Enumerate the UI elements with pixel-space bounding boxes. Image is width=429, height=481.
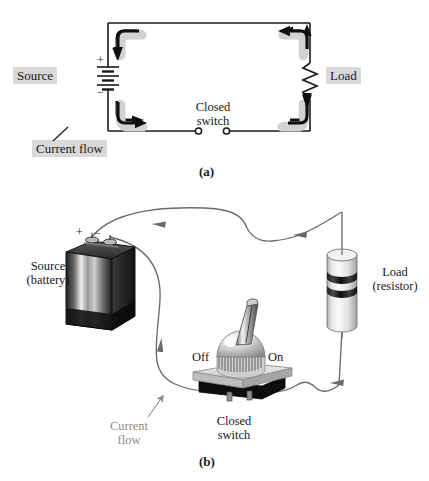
current-flow-line2: flow [98, 433, 160, 447]
panel-b-current-flow-label: Current flow [98, 419, 160, 447]
circuit-figure: Source Load + − Closed switch Current fl… [0, 0, 429, 481]
switch-off-label: Off [192, 350, 209, 364]
source-line1: Source [12, 259, 84, 273]
panel-b-source-label: Source (battery) [12, 259, 84, 287]
source-line2: (battery) [12, 273, 84, 287]
closed-switch-line1: Closed [203, 414, 265, 428]
panel-b-load-label: Load (resistor) [362, 265, 428, 293]
current-flow-line1: Current [98, 419, 160, 433]
panel-b-pictorial [0, 0, 429, 481]
load-line2: (resistor) [362, 279, 428, 293]
panel-b-closed-switch-label: Closed switch [203, 414, 265, 442]
closed-switch-line2: switch [203, 428, 265, 442]
panel-b-plus-sign: + [76, 226, 83, 239]
resistor-pictorial [327, 249, 357, 338]
panel-b-caption: (b) [199, 455, 215, 470]
load-line1: Load [362, 265, 428, 279]
panel-b-current-flow-leader [148, 396, 163, 417]
panel-b-minus-sign: − [94, 227, 101, 240]
switch-on-label: On [268, 350, 283, 364]
